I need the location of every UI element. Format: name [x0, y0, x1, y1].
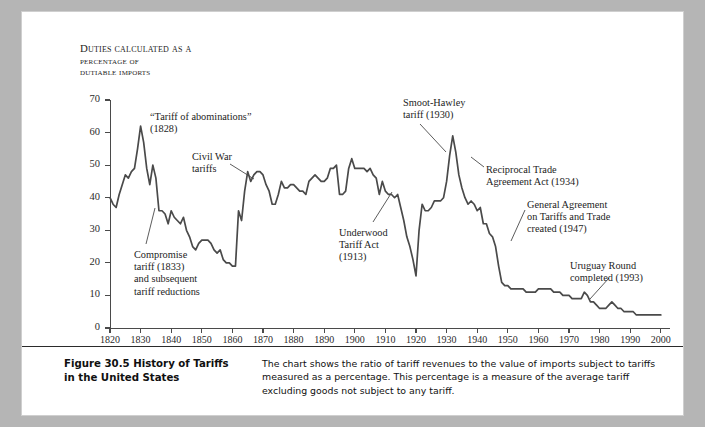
tariff-line-chart: Duties calculated as a percentage of dut…	[22, 12, 683, 342]
figure-caption-body: The chart shows the ratio of tariff reve…	[262, 357, 657, 397]
figure-caption-title: Figure 30.5 History of Tariffs in the Un…	[64, 357, 239, 384]
annotation-civil-war-tariffs: Civil War tariffs	[192, 151, 232, 175]
leader-line-civil-war	[230, 164, 254, 179]
leader-line-gatt	[511, 210, 525, 241]
figure-caption: Figure 30.5 History of Tariffs in the Un…	[22, 346, 683, 416]
tariff-series-plot	[22, 12, 683, 342]
leader-line-underwood	[373, 192, 392, 222]
annotation-smoot-hawley-tariff: Smoot-Hawley tariff (1930)	[403, 97, 465, 121]
leader-line-compromise-tariff	[146, 208, 155, 244]
leader-line-smoot-hawley	[420, 124, 446, 152]
annotation-compromise-tariff: Compromise tariff (1833) and subsequent …	[134, 249, 200, 298]
annotation-underwood-tariff-act: Underwood Tariff Act (1913)	[339, 227, 388, 264]
annotation-uruguay-round: Uruguay Round completed (1993)	[570, 260, 643, 284]
annotation-tariff-of-abominations: “Tariff of abominations” (1828)	[150, 111, 251, 135]
figure-panel: Duties calculated as a percentage of dut…	[22, 12, 683, 415]
annotation-reciprocal-trade: Reciprocal Trade Agreement Act (1934)	[486, 164, 579, 188]
leader-line-reciprocal-trade	[471, 157, 484, 167]
annotation-gatt-created: General Agreement on Tariffs and Trade c…	[527, 199, 610, 236]
